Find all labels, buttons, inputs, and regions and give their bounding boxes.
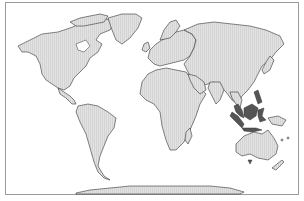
greenland xyxy=(108,14,142,44)
north-america xyxy=(18,18,114,90)
pacific-island xyxy=(287,137,289,139)
british-isles xyxy=(142,42,150,52)
highlight-borneo xyxy=(244,104,258,120)
india xyxy=(208,82,224,104)
highlight-java xyxy=(242,128,262,132)
highlight-sulawesi xyxy=(258,108,266,122)
new-guinea xyxy=(268,116,286,126)
south-america xyxy=(76,104,116,180)
tasmania xyxy=(248,160,252,164)
central-america xyxy=(58,88,76,104)
highlight-philippines xyxy=(254,90,262,104)
new-zealand xyxy=(272,160,284,170)
australia xyxy=(236,130,278,160)
pacific-island xyxy=(281,139,283,141)
world-map xyxy=(0,0,304,201)
antarctica xyxy=(76,186,244,194)
